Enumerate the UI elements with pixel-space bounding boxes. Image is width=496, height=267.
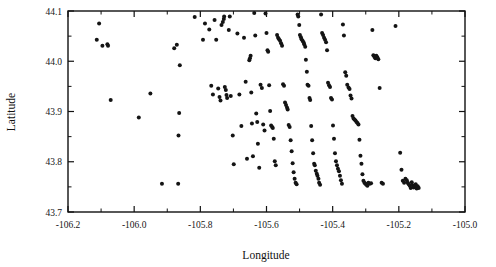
data-point [292, 170, 296, 174]
x-tick-label: -105.6 [254, 220, 279, 230]
data-point [209, 84, 213, 88]
x-tick-label: -105.2 [387, 220, 412, 230]
x-tick-label: -105.0 [453, 220, 478, 230]
scatter-plot-figure: -106.2-106.0-105.8-105.6-105.4-105.2-105… [0, 0, 496, 267]
x-tick-label: -105.4 [320, 220, 345, 230]
data-point [109, 98, 113, 102]
y-axis-minor-ticks [68, 36, 465, 187]
data-points-group [95, 11, 421, 190]
data-point [308, 98, 312, 102]
data-point [242, 36, 246, 40]
data-point [280, 44, 284, 48]
data-point [250, 122, 254, 126]
data-point [264, 12, 268, 16]
data-point [313, 163, 317, 167]
y-tick-label: 43.9 [45, 107, 62, 117]
data-point [214, 38, 218, 42]
y-axis-tick-labels: 43.743.843.944.044.1 [45, 7, 62, 218]
data-point [344, 74, 348, 78]
data-point [216, 86, 220, 90]
data-point [271, 126, 275, 130]
data-point [249, 54, 253, 58]
data-point [341, 23, 345, 27]
x-axis-title: Longitude [242, 249, 289, 262]
data-point [219, 98, 223, 102]
data-point [359, 162, 363, 166]
data-point [148, 91, 152, 95]
data-point [176, 182, 180, 186]
data-point [201, 38, 205, 42]
data-point [260, 86, 264, 90]
data-point [266, 50, 270, 54]
data-point [319, 13, 323, 17]
data-point [289, 138, 293, 142]
data-point [228, 15, 232, 19]
data-point [251, 154, 255, 158]
y-axis-title: Latitude [5, 93, 17, 131]
data-point [381, 182, 385, 186]
x-tick-label: -105.8 [188, 220, 213, 230]
data-point [232, 162, 236, 166]
data-point [265, 31, 269, 35]
data-point [207, 28, 211, 32]
data-point [237, 92, 241, 96]
data-point [310, 138, 314, 142]
data-point [245, 157, 249, 161]
data-point [316, 177, 320, 181]
data-point [303, 45, 307, 49]
x-axis-tick-labels: -106.2-106.0-105.8-105.6-105.4-105.2-105… [56, 220, 478, 230]
data-point [255, 120, 259, 124]
data-point [222, 15, 226, 19]
data-point [340, 182, 344, 186]
data-point [177, 111, 181, 115]
data-point [235, 32, 239, 36]
data-point [257, 166, 261, 170]
data-point [348, 87, 352, 91]
data-point [337, 169, 341, 173]
data-point [369, 181, 373, 185]
data-point [218, 95, 222, 99]
data-point [399, 168, 403, 172]
data-point [357, 138, 361, 142]
data-point [334, 159, 338, 163]
data-point [252, 11, 256, 15]
data-point [304, 58, 308, 62]
data-point [231, 134, 235, 138]
data-point [253, 34, 257, 38]
data-point [370, 28, 374, 32]
data-point [339, 178, 343, 182]
data-point [273, 159, 277, 163]
data-point [239, 124, 243, 128]
data-point [293, 177, 297, 181]
data-point [318, 183, 322, 187]
data-point [307, 84, 311, 88]
data-point [338, 174, 342, 178]
data-point [356, 123, 360, 127]
data-point [288, 125, 292, 129]
data-point [95, 38, 99, 42]
data-point [324, 40, 328, 44]
data-point [211, 92, 215, 96]
data-point [282, 84, 286, 88]
data-point [244, 80, 248, 84]
data-point [177, 134, 181, 138]
data-point [286, 107, 290, 111]
data-point [325, 48, 329, 52]
data-point [267, 83, 271, 87]
data-point [376, 57, 380, 61]
data-point [97, 22, 101, 26]
data-point [305, 70, 309, 74]
data-point [331, 124, 335, 128]
data-point [203, 22, 207, 26]
data-point [224, 88, 228, 92]
data-point [333, 151, 337, 155]
scatter-chart-canvas: -106.2-106.0-105.8-105.6-105.4-105.2-105… [0, 0, 496, 267]
data-point [106, 44, 110, 48]
data-point [290, 149, 294, 153]
data-point [358, 154, 362, 158]
data-point [296, 15, 300, 19]
data-point [332, 137, 336, 141]
data-point [137, 116, 141, 120]
data-point [229, 94, 233, 98]
data-point [360, 172, 364, 176]
